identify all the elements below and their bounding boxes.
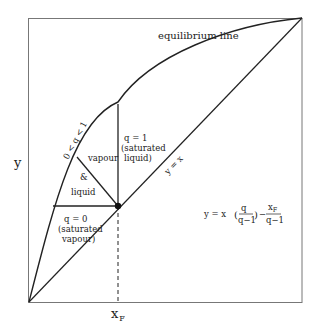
- q-one-label-2: (saturated: [121, 143, 166, 153]
- diagonal-label: y = x: [162, 153, 185, 177]
- equation-frac2-num: xF: [268, 202, 278, 214]
- q-one-label-1: q = 1: [124, 133, 147, 143]
- two-phase-label-and: &: [80, 172, 88, 182]
- q-zero-label-3: vapour): [61, 234, 95, 244]
- xf-label-x: x: [111, 306, 119, 321]
- xf-label-sub: F: [119, 314, 125, 323]
- equation-paren-close: ): [254, 209, 258, 220]
- equilibrium-line-label: equilibrium line: [158, 30, 239, 41]
- xf-label: xF: [111, 306, 125, 323]
- two-phase-label-vapour: vapour: [87, 153, 119, 163]
- y-axis-label: y: [13, 155, 22, 170]
- equation-frac2-num-sub: F: [273, 206, 278, 214]
- q-line-diagram: equilibrium line q = 1 (saturated liquid…: [0, 0, 314, 328]
- equation-lhs: y = x: [203, 209, 226, 219]
- q-zero-label-2: (saturated: [58, 224, 103, 234]
- equation-frac2-den: q−1: [266, 215, 284, 225]
- two-phase-label-liquid: liquid: [71, 187, 96, 197]
- q-one-label-3: liquid): [124, 153, 152, 163]
- q-range-label: 0 < q < 1: [61, 120, 89, 161]
- equation-frac1-num: q: [241, 203, 247, 213]
- q-line-equation: y = x ( q q−1 ) − xF q−1: [203, 202, 284, 225]
- q-zero-label-1: q = 0: [64, 214, 87, 224]
- feed-point: [115, 203, 121, 209]
